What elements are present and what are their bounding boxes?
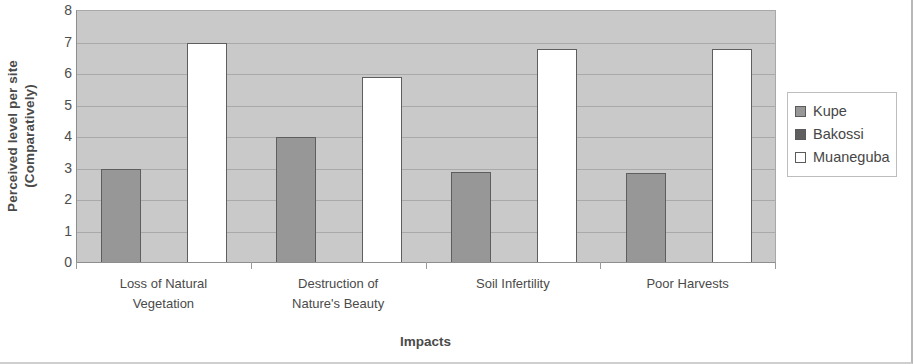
legend-swatch-bakossi-icon (795, 129, 806, 140)
y-axis-tick-5: 5 (48, 98, 72, 112)
x-axis-tick-2 (426, 262, 427, 269)
x-axis-category-label-0: Loss of NaturalVegetation (76, 274, 251, 314)
x-axis-category-label-2: Soil Infertility (426, 274, 601, 294)
bar-muaneguba-1 (362, 77, 402, 263)
plot-area (76, 10, 776, 263)
category-label-line: Soil Infertility (476, 276, 550, 291)
y-axis-tick-labels: 012345678 (42, 0, 72, 364)
y-axis-tick-7: 7 (48, 35, 72, 49)
legend-item-bakossi[interactable]: Bakossi (795, 123, 890, 146)
y-axis-tick-1: 1 (48, 224, 72, 238)
plot-right-border (775, 10, 776, 262)
bar-chart-figure: Perceived level per site (Comparatively)… (0, 0, 913, 364)
bar-muaneguba-2 (537, 49, 577, 263)
gridline-2 (77, 200, 776, 201)
y-axis-tick-2: 2 (48, 192, 72, 206)
y-axis-tick-6: 6 (48, 66, 72, 80)
category-label-line: Loss of Natural (120, 276, 207, 291)
gridline-1 (77, 232, 776, 233)
category-label-line: Nature's Beauty (292, 296, 384, 311)
y-axis-tick-4: 4 (48, 129, 72, 143)
category-label-line: Vegetation (133, 296, 194, 311)
bar-kupe-3 (626, 173, 666, 263)
y-axis-title: Perceived level per site (Comparatively) (0, 8, 42, 264)
legend-item-label: Kupe (813, 104, 847, 119)
legend-swatch-muaneguba-icon (795, 152, 806, 163)
legend-item-label: Muaneguba (813, 150, 890, 165)
gridline-6 (77, 74, 776, 75)
bar-kupe-2 (451, 172, 491, 263)
x-axis-category-label-1: Destruction ofNature's Beauty (251, 274, 426, 314)
legend-item-kupe[interactable]: Kupe (795, 100, 890, 123)
gridline-7 (77, 43, 776, 44)
gridline-3 (77, 169, 776, 170)
chart-legend: KupeBakossiMuaneguba (787, 92, 897, 177)
y-axis-tick-8: 8 (48, 3, 72, 17)
category-label-line: Destruction of (298, 276, 378, 291)
x-axis-tick-3 (600, 262, 601, 269)
x-axis-tick-0 (76, 262, 77, 269)
x-axis-category-label-3: Poor Harvests (600, 274, 775, 294)
legend-item-muaneguba[interactable]: Muaneguba (795, 146, 890, 169)
category-label-line: Poor Harvests (646, 276, 728, 291)
gridline-4 (77, 137, 776, 138)
gridline-5 (77, 106, 776, 107)
bar-kupe-1 (276, 137, 316, 263)
y-axis-title-line-2: (Comparatively) (22, 84, 37, 188)
y-axis-tick-3: 3 (48, 161, 72, 175)
y-axis-tick-0: 0 (48, 255, 72, 269)
legend-swatch-kupe-icon (795, 106, 806, 117)
y-axis-title-line-1: Perceived level per site (5, 60, 20, 212)
x-axis-tick-1 (251, 262, 252, 269)
bar-kupe-0 (101, 169, 141, 264)
bar-muaneguba-3 (712, 49, 752, 263)
bar-muaneguba-0 (187, 43, 227, 264)
legend-item-label: Bakossi (813, 127, 864, 142)
x-axis-tick-4 (775, 262, 776, 269)
x-axis-title: Impacts (76, 334, 775, 349)
